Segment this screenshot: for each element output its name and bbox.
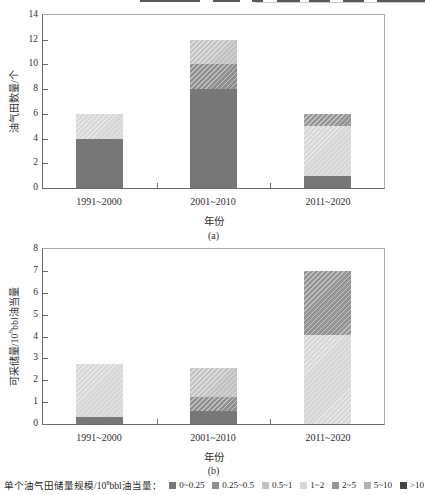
x-tick-mark: [270, 419, 271, 424]
legend: 单个油气田储量规模/108bbl油当量： 0~0.25 0.25~0.5 0.5…: [4, 478, 424, 492]
bar-segment-a-2011~2020-0~0.25: [304, 176, 351, 188]
y-axis-title-b-text: 可采储量/10: [9, 333, 20, 386]
bar-segment-b-2001~2010-0.5~1: [190, 368, 237, 396]
legend-item-2-5: 2~5: [332, 480, 356, 490]
x-tick-mark: [157, 183, 158, 188]
bar-segment-a-2001~2010-0.25~0.5: [190, 64, 237, 89]
legend-item-label: 1~2: [310, 480, 324, 490]
legend-item-label: 2~5: [342, 480, 356, 490]
x-axis-title-a: 年份: [42, 213, 385, 228]
y-tick-mark: [43, 139, 48, 140]
legend-title: 单个油气田储量规模/108bbl油当量：: [4, 478, 162, 492]
subfigure-label-b: (b): [42, 465, 385, 476]
legend-swatch-icon: [262, 482, 269, 489]
legend-swatch-icon: [212, 482, 219, 489]
y-axis-title-b: 可采储量/108bbl油当量: [8, 247, 19, 427]
bar-segment-b-2011~2020-1~2: [304, 335, 351, 424]
plot-area-a: 02468101214: [42, 14, 385, 189]
bar-segment-b-2001~2010-0.25~0.5: [190, 397, 237, 411]
y-tick-label: 5: [33, 310, 38, 320]
legend-title-text: 单个油气田储量规模/10: [4, 481, 106, 491]
legend-item-label: 5~10: [374, 480, 392, 490]
y-tick-mark: [43, 64, 48, 65]
x-tick-label-b-2: 2001~2010: [153, 432, 273, 443]
y-tick-mark: [43, 114, 48, 115]
x-tick-mark: [270, 183, 271, 188]
plot-area-b: 012345678: [42, 248, 385, 425]
y-tick-label: 2: [33, 159, 38, 169]
legend-swatch-icon: [332, 482, 339, 489]
bar-segment-b-1991~2000-0~0.25: [76, 417, 123, 424]
legend-title-post: bbl油当量：: [109, 481, 161, 491]
y-tick-label: 2: [33, 376, 38, 386]
y-tick-label: 8: [33, 244, 38, 254]
legend-item-1-2: 1~2: [300, 480, 324, 490]
cropped-content-artifact: [0, 0, 425, 4]
legend-swatch-icon: [364, 482, 371, 489]
y-tick-mark: [43, 358, 48, 359]
x-tick-label-a-1: 1991~2000: [39, 196, 159, 207]
y-tick-label: 4: [33, 134, 38, 144]
bar-segment-a-2001~2010-0~0.25: [190, 89, 237, 188]
legend-item-label: 0~0.25: [179, 480, 204, 490]
y-tick-label: 14: [29, 10, 39, 20]
legend-item-label: >10: [410, 480, 424, 490]
legend-item-label: 0.5~1: [272, 480, 293, 490]
legend-item-0.25-0.5: 0.25~0.5: [212, 480, 254, 490]
legend-swatch-icon: [169, 482, 176, 489]
legend-swatch-icon: [400, 482, 407, 489]
y-tick-label: 0: [33, 183, 38, 193]
bar-segment-a-2001~2010-0.5~1: [190, 40, 237, 65]
legend-item-0.5-1: 0.5~1: [262, 480, 293, 490]
y-tick-label: 4: [33, 332, 38, 342]
y-axis-title-a: 油气田数量/个: [8, 12, 19, 192]
subfigure-label-a: (a): [42, 230, 385, 241]
y-tick-mark: [43, 271, 48, 272]
bar-segment-a-1991~2000-1~2: [76, 114, 123, 139]
x-tick-label-b-3: 2011~2020: [268, 432, 388, 443]
y-axis-title-a-text: 油气田数量/个: [9, 70, 20, 133]
y-tick-label: 12: [29, 35, 39, 45]
y-tick-label: 0: [33, 419, 38, 429]
legend-item-gt10: >10: [400, 480, 424, 490]
stacked-bar-figure: 油气田数量/个 02468101214 1991~2000 2001~2010 …: [0, 0, 425, 495]
bar-segment-a-1991~2000-0~0.25: [76, 139, 123, 188]
bar-segment-b-2011~2020-2~5: [304, 271, 351, 336]
bar-segment-a-2011~2020-2~5: [304, 114, 351, 126]
y-tick-label: 8: [33, 84, 38, 94]
y-tick-mark: [43, 402, 48, 403]
x-tick-label-a-3: 2011~2020: [268, 196, 388, 207]
y-tick-label: 10: [29, 60, 39, 70]
y-tick-mark: [43, 380, 48, 381]
legend-item-0-0.25: 0~0.25: [169, 480, 204, 490]
y-tick-label: 7: [33, 266, 38, 276]
x-tick-mark: [157, 419, 158, 424]
bar-segment-a-2011~2020-1~2: [304, 126, 351, 175]
y-tick-mark: [43, 89, 48, 90]
bar-segment-b-1991~2000-1~2: [76, 364, 123, 418]
bar-segment-b-2001~2010-0~0.25: [190, 411, 237, 424]
x-tick-label-b-1: 1991~2000: [39, 432, 159, 443]
x-tick-label-a-2: 2001~2010: [153, 196, 273, 207]
y-tick-mark: [43, 337, 48, 338]
legend-item-5-10: 5~10: [364, 480, 392, 490]
y-tick-label: 6: [33, 109, 38, 119]
legend-item-label: 0.25~0.5: [222, 480, 254, 490]
y-axis-title-b-sup: 8: [7, 330, 15, 334]
y-tick-mark: [43, 40, 48, 41]
y-tick-label: 1: [33, 397, 38, 407]
x-axis-title-b: 年份: [42, 449, 385, 464]
y-tick-label: 6: [33, 288, 38, 298]
y-tick-mark: [43, 315, 48, 316]
y-tick-mark: [43, 293, 48, 294]
y-tick-label: 3: [33, 354, 38, 364]
y-tick-mark: [43, 163, 48, 164]
legend-swatch-icon: [300, 482, 307, 489]
y-axis-title-b-post: bbl油当量: [9, 287, 20, 330]
